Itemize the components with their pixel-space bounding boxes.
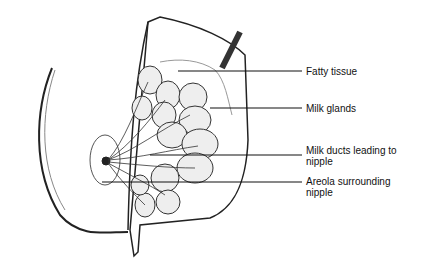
label-milk-ducts: Milk ducts leading to nipple bbox=[306, 145, 426, 167]
breast-anatomy-illustration bbox=[0, 0, 431, 277]
label-areola: Areola surrounding nipple bbox=[306, 176, 411, 198]
label-milk-glands: Milk glands bbox=[306, 103, 356, 114]
label-fatty-tissue: Fatty tissue bbox=[306, 66, 357, 77]
